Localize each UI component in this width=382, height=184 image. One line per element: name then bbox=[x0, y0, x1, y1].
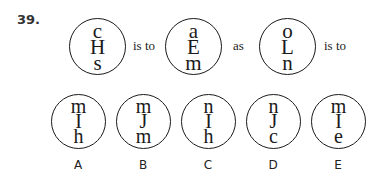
option-c-circle[interactable]: n I h bbox=[181, 94, 236, 149]
circle-bottom-letter: m bbox=[185, 55, 201, 71]
analogy-circle-3: o L n bbox=[259, 18, 316, 75]
analogy-circle-1: c H s bbox=[69, 18, 126, 75]
circle-bottom-letter: n bbox=[282, 55, 293, 71]
analogy-word-is-to-1: is to bbox=[133, 38, 155, 54]
circle-bottom-letter: e bbox=[334, 129, 343, 144]
option-e-circle[interactable]: m I e bbox=[311, 94, 366, 149]
option-e-label[interactable]: E bbox=[328, 158, 348, 172]
circle-bottom-letter: h bbox=[74, 129, 84, 144]
option-a-circle[interactable]: m I h bbox=[51, 94, 106, 149]
option-d-circle[interactable]: n J c bbox=[246, 94, 301, 149]
circle-bottom-letter: h bbox=[204, 129, 214, 144]
question-number: 39. bbox=[17, 12, 40, 27]
circle-bottom-letter: c bbox=[269, 129, 278, 144]
analogy-circle-2: a E m bbox=[165, 18, 222, 75]
option-b-label[interactable]: B bbox=[133, 158, 153, 172]
circle-bottom-letter: s bbox=[93, 55, 101, 71]
option-d-label[interactable]: D bbox=[263, 158, 283, 172]
option-c-label[interactable]: C bbox=[198, 158, 218, 172]
option-a-label[interactable]: A bbox=[68, 158, 88, 172]
option-b-circle[interactable]: m J m bbox=[116, 94, 171, 149]
analogy-word-is-to-2: is to bbox=[324, 38, 346, 54]
analogy-word-as: as bbox=[233, 38, 244, 54]
circle-bottom-letter: m bbox=[136, 129, 152, 144]
